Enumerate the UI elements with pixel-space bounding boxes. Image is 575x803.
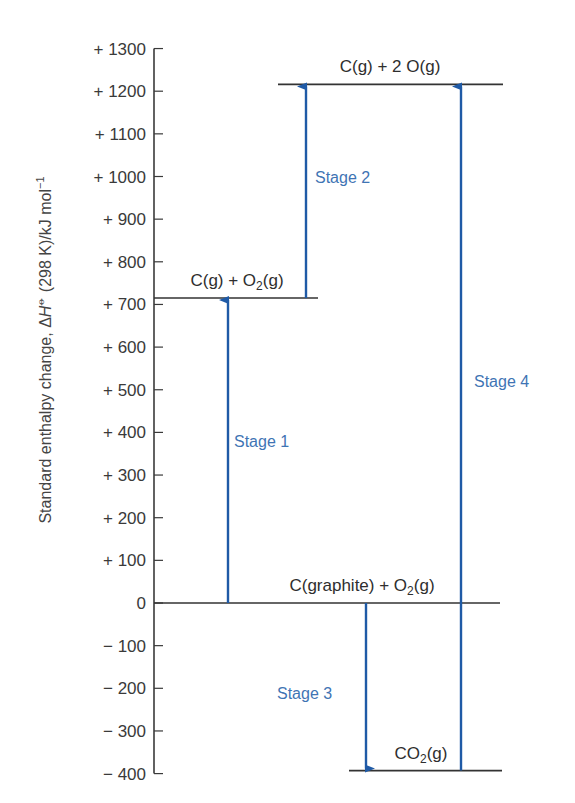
y-tick-label: + 200 (103, 509, 146, 528)
y-tick-label: 0 (137, 594, 146, 613)
y-tick-label: − 300 (103, 722, 146, 741)
y-tick-label: − 100 (103, 637, 146, 656)
stage-label-stage-4: Stage 4 (474, 373, 529, 390)
y-tick-label: + 300 (103, 466, 146, 485)
level-label-c-o2: C(g) + O2(g) (190, 271, 283, 293)
y-tick-label: + 1300 (94, 40, 146, 59)
y-axis-ticks: + 1300+ 1200+ 1100+ 1000+ 900+ 800+ 700+… (94, 40, 163, 784)
y-tick-label: + 900 (103, 210, 146, 229)
y-tick-label: + 600 (103, 338, 146, 357)
y-tick-label: − 200 (103, 679, 146, 698)
stage-label-stage-2: Stage 2 (315, 169, 370, 186)
stage-arrows: Stage 1Stage 2Stage 3Stage 4 (228, 86, 529, 770)
level-label-co2: CO2(g) (395, 744, 448, 766)
y-tick-label: + 700 (103, 295, 146, 314)
energy-levels: C(g) + 2 O(g)C(g) + O2(g)C(graphite) + O… (154, 57, 503, 770)
enthalpy-level-diagram: Standard enthalpy change, ΔH⦵ (298 K)/kJ… (0, 0, 575, 803)
y-tick-label: − 400 (103, 765, 146, 784)
stage-label-stage-1: Stage 1 (234, 433, 289, 450)
y-tick-label: + 100 (103, 551, 146, 570)
y-tick-label: + 800 (103, 253, 146, 272)
y-tick-label: + 1200 (94, 82, 146, 101)
y-tick-label: + 400 (103, 423, 146, 442)
y-tick-label: + 1100 (95, 125, 146, 144)
y-tick-label: + 500 (103, 381, 146, 400)
level-label-c-2o: C(g) + 2 O(g) (340, 57, 441, 76)
y-tick-label: + 1000 (94, 168, 146, 187)
stage-label-stage-3: Stage 3 (277, 685, 332, 702)
y-axis-title-text: Standard enthalpy change, ΔH⦵ (298 K)/kJ… (34, 176, 54, 523)
y-axis-title: Standard enthalpy change, ΔH⦵ (298 K)/kJ… (34, 176, 54, 523)
level-label-graphite-o2: C(graphite) + O2(g) (289, 576, 434, 598)
